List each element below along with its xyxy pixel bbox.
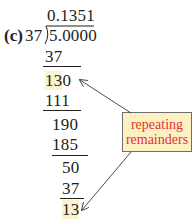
arrows [0,0,194,224]
arrow-to-130 [80,80,131,113]
arrow-to-13 [82,152,131,210]
